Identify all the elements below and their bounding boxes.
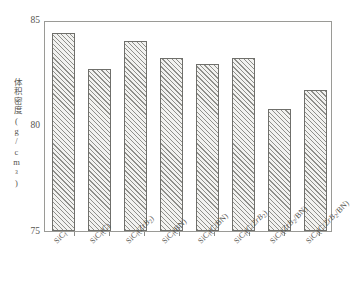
bar-SiCf(C) [88, 69, 111, 231]
x-tick-mark-3 [144, 232, 145, 236]
plot-area [44, 21, 332, 232]
bar-SiCf [52, 33, 75, 231]
x-tick-mark-2 [109, 232, 110, 236]
y-tick-label-85: 85 [14, 15, 40, 25]
bar-SiCf(ZrB2/BN) [268, 109, 291, 231]
x-tick-mark-1 [74, 232, 75, 236]
bar-SiCf(ZrB2) [124, 41, 147, 231]
bar-SiCf(C/BN) [196, 64, 219, 231]
y-tick-label-80: 80 [14, 120, 40, 130]
y-axis-title: 体积密度(g/cm³) [8, 78, 24, 188]
y-tick-label-75: 75 [14, 226, 40, 236]
bar-SiCf(BN) [160, 58, 183, 231]
bar-SiCf(C/ZrB2) [232, 58, 255, 231]
